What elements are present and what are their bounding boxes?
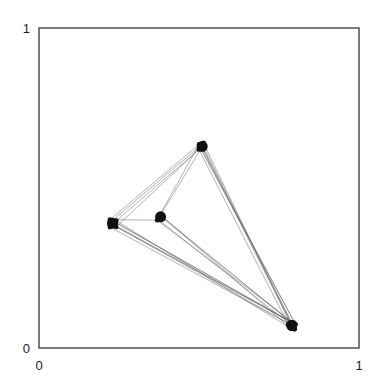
node-member-point (114, 225, 119, 230)
edge-B-D (110, 223, 292, 325)
node-member-point (291, 320, 296, 325)
edge-C-D (159, 220, 292, 325)
plot-frame (39, 28, 359, 348)
node-member-point (288, 325, 293, 330)
edge-A-D (199, 149, 290, 327)
x-tick-label-right: 1 (355, 358, 362, 373)
node-A (196, 141, 207, 152)
network-plot: 1 0 0 1 (0, 0, 381, 392)
node-D (286, 320, 298, 332)
edge-C-D (160, 215, 290, 328)
y-tick-label-top: 1 (23, 21, 30, 36)
edges-layer (110, 143, 296, 328)
y-tick-label-bottom: 0 (23, 341, 30, 356)
edge-B-A (116, 147, 202, 221)
node-member-point (292, 327, 297, 332)
edge-B-D (116, 221, 290, 328)
edge-B-A (110, 144, 199, 219)
node-member-point (156, 217, 161, 222)
edge-B-D (110, 227, 291, 325)
edge-C-A (157, 146, 203, 221)
edge-A-D (202, 146, 292, 325)
edge-C-A (159, 144, 199, 215)
node-C (155, 211, 166, 222)
edge-C-D (161, 216, 291, 322)
node-B (107, 217, 119, 229)
node-member-point (160, 216, 165, 221)
edge-B-D (112, 224, 291, 323)
x-tick-label-left: 0 (35, 358, 42, 373)
nodes-layer (107, 141, 298, 332)
edge-B-A (110, 144, 203, 222)
node-member-point (107, 223, 112, 228)
node-member-point (200, 144, 205, 149)
